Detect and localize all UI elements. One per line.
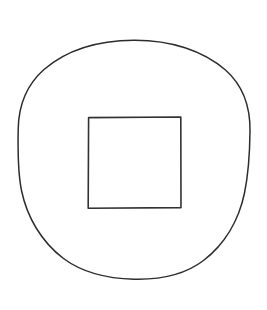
line-drawing-svg xyxy=(0,0,267,310)
figure-canvas xyxy=(0,0,267,310)
page-background xyxy=(0,0,267,310)
